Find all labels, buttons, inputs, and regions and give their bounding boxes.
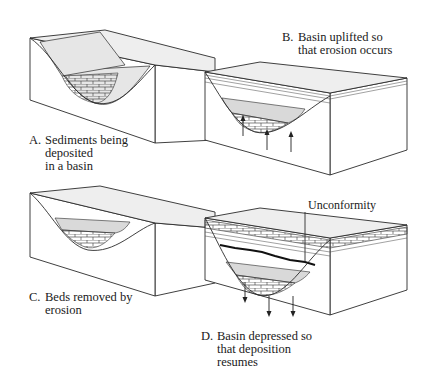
- caption-a: A.Sediments being deposited in a basin: [29, 134, 128, 173]
- caption-d-letter: D.: [201, 330, 217, 343]
- caption-a-letter: A.: [29, 134, 45, 147]
- block-b: [205, 62, 407, 175]
- block-c: [30, 186, 215, 296]
- block-a: [30, 30, 215, 143]
- unconformity-label: Unconformity: [308, 198, 376, 213]
- caption-d: D.Basin depressed so that deposition res…: [201, 330, 312, 369]
- unconformity-formation-diagram: [0, 0, 430, 383]
- caption-c-letter: C.: [29, 291, 45, 304]
- block-d: [205, 208, 407, 317]
- caption-b: B.Basin uplifted so that erosion occurs: [282, 31, 392, 57]
- caption-c: C.Beds removed by erosion: [29, 291, 132, 317]
- caption-b-letter: B.: [282, 31, 298, 44]
